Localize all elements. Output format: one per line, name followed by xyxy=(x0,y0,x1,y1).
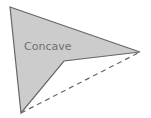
concave-polygon xyxy=(10,7,140,113)
shape-label: Concave xyxy=(24,40,72,53)
concave-diagram: Concave xyxy=(0,0,151,118)
